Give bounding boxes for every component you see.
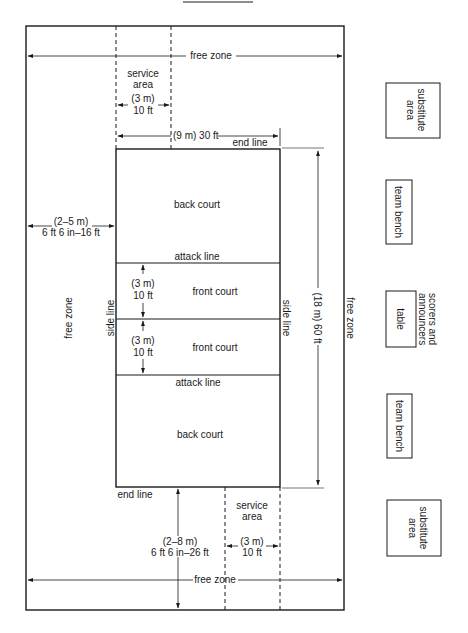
substitute-area-top-line2: area — [405, 100, 416, 120]
front-court-bottom-imperial: 10 ft — [133, 347, 153, 358]
service-area-top-line1: service — [127, 68, 159, 79]
court-width-label: (9 m) 30 ft — [173, 130, 219, 141]
substitute-area-bottom-line2: area — [407, 518, 418, 538]
free-zone-left-label: free zone — [63, 297, 74, 339]
front-court-top-metric: (3 m) — [131, 278, 154, 289]
end-free-zone-imperial: 6 ft 6 in–26 ft — [151, 547, 209, 558]
substitute-area-bottom-line1: substitute — [418, 507, 429, 550]
service-area-bottom-imperial: 10 ft — [242, 547, 262, 558]
attack-line-top-label: attack line — [174, 251, 219, 262]
side-line-left-label: side line — [105, 299, 116, 336]
front-court-bottom-label: front court — [192, 342, 237, 353]
free-zone-top-label: free zone — [190, 50, 232, 61]
attack-line-bottom-label: attack line — [175, 377, 220, 388]
service-area-bottom-line1: service — [236, 500, 268, 511]
free-zone-bottom-label: free zone — [194, 574, 236, 585]
back-court-top-label: back court — [174, 199, 220, 210]
volleyball-court-diagram: free zone service area (3 m) 10 ft (9 m)… — [0, 0, 468, 633]
end-line-top-label: end line — [232, 137, 267, 148]
front-court-bottom-metric: (3 m) — [131, 335, 154, 346]
team-bench-bottom-label: team bench — [394, 400, 405, 452]
side-line-right-label: side line — [281, 300, 292, 337]
service-area-top-line2: area — [133, 79, 153, 90]
table-label: table — [395, 308, 406, 330]
end-free-zone-metric: (2–8 m) — [163, 536, 197, 547]
service-area-top-metric: (3 m) — [131, 93, 154, 104]
front-court-top-imperial: 10 ft — [133, 290, 153, 301]
side-free-zone-imperial: 6 ft 6 in–16 ft — [42, 227, 100, 238]
free-zone-right-label: free zone — [345, 297, 356, 339]
court-length-label: (18 m) 60 ft — [312, 292, 323, 343]
scorers-line2: announcers — [417, 293, 428, 345]
end-line-bottom-label: end line — [117, 489, 152, 500]
side-free-zone-metric: (2–5 m) — [54, 216, 88, 227]
team-bench-top-label: team bench — [393, 186, 404, 238]
substitute-area-top-line1: substitute — [416, 89, 427, 132]
front-court-top-label: front court — [192, 286, 237, 297]
service-area-top-imperial: 10 ft — [133, 105, 153, 116]
service-area-bottom-line2: area — [242, 511, 262, 522]
service-area-bottom-metric: (3 m) — [240, 536, 263, 547]
back-court-bottom-label: back court — [177, 429, 223, 440]
